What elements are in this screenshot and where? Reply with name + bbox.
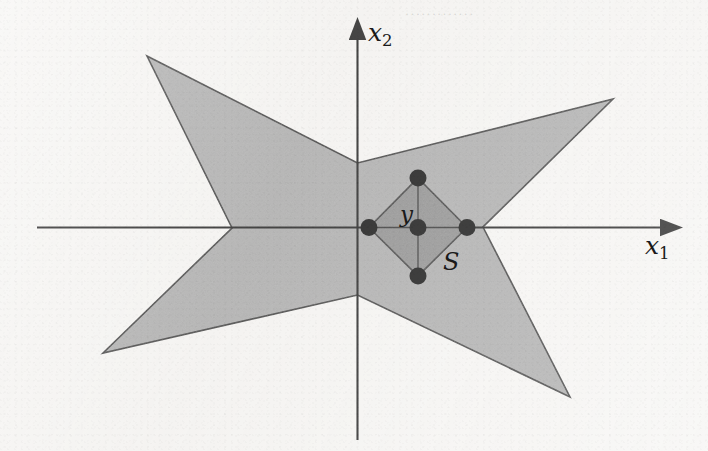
point-right (459, 219, 476, 236)
point-bottom (410, 268, 427, 285)
vector-figure (0, 0, 708, 451)
x-axis-label-base: x (645, 231, 659, 260)
x-axis-label-subscript: 1 (659, 244, 670, 263)
x-axis-label: x1 (645, 233, 670, 262)
point-left (361, 219, 378, 236)
point-top (410, 170, 427, 187)
y-axis-label-base: x (368, 18, 382, 47)
figure-canvas: ············· x2 x1 y S (0, 0, 708, 451)
scan-artifact-text: ············· (405, 6, 474, 22)
y-axis-label-subscript: 2 (382, 31, 393, 50)
y-axis-label: x2 (368, 20, 393, 49)
set-S-label: S (443, 250, 459, 274)
point-y-label: y (400, 203, 413, 226)
